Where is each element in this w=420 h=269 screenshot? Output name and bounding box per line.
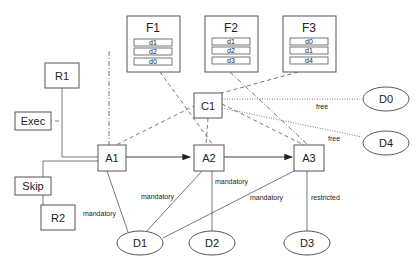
form-field: d1: [305, 47, 313, 54]
form-field: d2: [227, 47, 235, 54]
workflow-diagram: free free mandatory mandatory mandatory …: [0, 0, 420, 269]
form-title: F3: [302, 21, 316, 35]
activity-label: A2: [202, 152, 215, 164]
edge-c1-d4: [222, 108, 362, 137]
edge-f2-a3: [230, 72, 308, 145]
data-D2[interactable]: D2: [189, 231, 235, 255]
activity-label: A1: [105, 152, 118, 164]
data-label: D2: [205, 237, 219, 249]
role-label: R2: [51, 212, 65, 224]
form-title: F1: [146, 21, 160, 35]
form-F3[interactable]: F3 d0 d1 d4: [283, 16, 336, 72]
edge-f1-a1: [109, 52, 110, 145]
form-field: d4: [305, 57, 313, 64]
label-a2-d2: mandatory: [215, 178, 249, 186]
operation-label: Skip: [22, 180, 43, 192]
data-label: D1: [133, 237, 147, 249]
edge-c1-a1: [114, 105, 196, 146]
condition-label: C1: [201, 100, 215, 112]
operation-Exec[interactable]: Exec: [15, 112, 51, 130]
edge-a1-d1: [107, 171, 128, 232]
activity-label: A3: [302, 152, 315, 164]
form-title: F2: [224, 21, 238, 35]
form-field: d1: [149, 39, 157, 46]
edge-c1-a2: [206, 118, 208, 145]
form-field: d2: [149, 48, 157, 55]
form-field: d0: [149, 58, 157, 65]
data-D0[interactable]: D0: [363, 87, 409, 111]
activity-A3[interactable]: A3: [294, 145, 324, 171]
operation-Skip[interactable]: Skip: [15, 177, 51, 195]
label-a2-d1: mandatory: [141, 193, 175, 201]
role-R1[interactable]: R1: [45, 63, 79, 88]
form-field: d0: [305, 38, 313, 45]
edge-c1-a3: [222, 104, 304, 145]
data-label: D0: [379, 93, 393, 105]
data-label: D3: [300, 237, 314, 249]
form-F2[interactable]: F2 d1 d2 d3: [205, 16, 258, 72]
label-c1-d4: free: [328, 135, 340, 142]
label-a3-d3: restricted: [311, 194, 340, 201]
edge-a2-d1: [145, 171, 202, 233]
form-field: d1: [227, 38, 235, 45]
role-R2[interactable]: R2: [41, 205, 75, 230]
data-D1[interactable]: D1: [117, 231, 163, 255]
activity-A1[interactable]: A1: [98, 145, 126, 171]
data-label: D4: [379, 137, 393, 149]
label-a1-d1: mandatory: [83, 210, 117, 218]
label-c1-d0: free: [316, 103, 328, 110]
data-D4[interactable]: D4: [363, 131, 409, 155]
data-edges: [107, 171, 307, 238]
form-field: d3: [227, 57, 235, 64]
role-label: R1: [55, 70, 69, 82]
condition-C1[interactable]: C1: [194, 93, 222, 118]
data-D3[interactable]: D3: [284, 231, 330, 255]
form-F1[interactable]: F1 d1 d2 d0: [127, 16, 180, 72]
activity-A2[interactable]: A2: [194, 145, 224, 171]
label-a3-d1: mandatory: [250, 194, 284, 202]
operation-label: Exec: [21, 115, 46, 127]
edge-f3-c1: [218, 72, 298, 94]
